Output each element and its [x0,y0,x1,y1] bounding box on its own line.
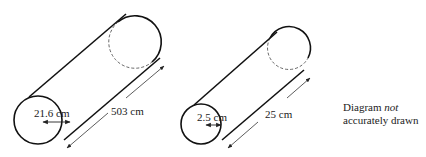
large-cylinder-top-edge [29,14,126,97]
large-cylinder-bottom-edge [64,58,160,140]
large-cylinder: 21.6 cm 503 cm [14,14,164,148]
small-cylinder-length-label: 25 cm [265,108,293,120]
small-cylinder-bottom-edge [222,70,304,140]
small-cylinder-top-edge [194,32,277,105]
small-cylinder-front-face [181,104,221,144]
note-italic: not [384,101,398,113]
cylinders-diagram: 21.6 cm 503 cm 2.5 cm 25 cm [0,0,426,157]
not-to-scale-note: Diagram not accurately drawn [343,101,418,127]
small-cylinder-length-arrow-a [228,122,258,148]
large-cylinder-back-face-visible [118,16,161,62]
large-cylinder-length-label: 503 cm [111,105,144,117]
large-cylinder-length-arrow-a [67,113,108,148]
small-cylinder-diameter-label: 2.5 cm [197,111,227,123]
large-cylinder-diameter-label: 21.6 cm [34,107,70,119]
note-prefix: Diagram [343,101,384,113]
small-cylinder: 2.5 cm 25 cm [181,27,310,148]
small-cylinder-back-face-hidden [268,38,308,69]
small-cylinder-back-face-visible [270,27,310,58]
large-cylinder-back-face-hidden [109,22,152,68]
large-cylinder-front-face [14,96,62,144]
note-line-1: Diagram not [343,101,418,114]
note-line-2: accurately drawn [343,114,418,127]
